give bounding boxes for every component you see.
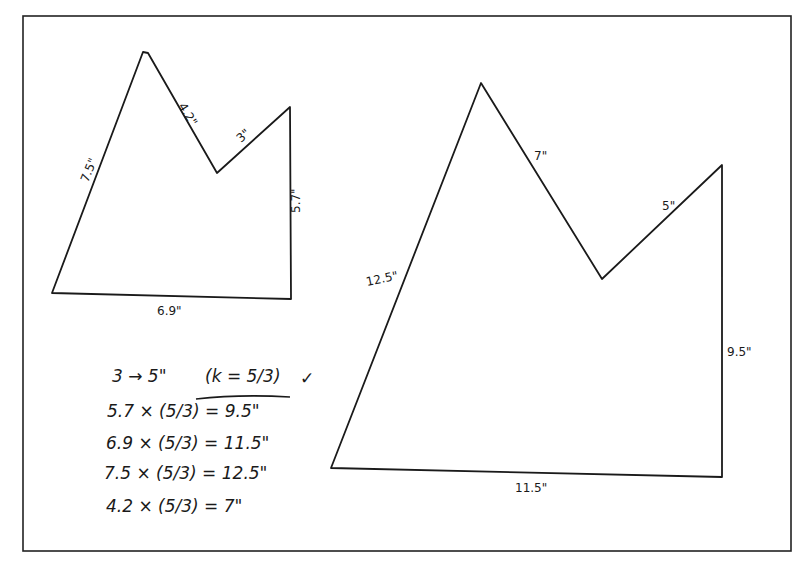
label-small-topright: 4.2" [175, 100, 200, 128]
label-large-left: 12.5" [365, 269, 399, 289]
label-large-topright: 7" [534, 149, 547, 163]
work-line-1: 3 → 5" [112, 366, 167, 386]
check-mark: ✓ [300, 368, 314, 388]
label-small-right: 5.7" [289, 188, 303, 213]
scale-factor: (k = 5/3) [205, 366, 281, 386]
label-large-valley: 5" [662, 199, 675, 213]
calc-line-3: 7.5 × (5/3) = 12.5" [104, 463, 267, 483]
label-large-right: 9.5" [727, 345, 752, 359]
diagram-stage: 7.5" 4.2" 3" 5.7" 6.9" 12.5" 7" 5" 9.5" … [0, 0, 807, 567]
calc-line-4: 4.2 × (5/3) = 7" [106, 496, 242, 516]
underline [196, 396, 290, 399]
label-small-left: 7.5" [78, 156, 100, 184]
calc-line-1: 5.7 × (5/3) = 9.5" [107, 401, 260, 421]
label-large-bottom: 11.5" [515, 481, 547, 495]
calc-line-2: 6.9 × (5/3) = 11.5" [106, 433, 269, 453]
label-small-bottom: 6.9" [157, 304, 182, 318]
diagram-canvas: 7.5" 4.2" 3" 5.7" 6.9" 12.5" 7" 5" 9.5" … [0, 0, 807, 567]
